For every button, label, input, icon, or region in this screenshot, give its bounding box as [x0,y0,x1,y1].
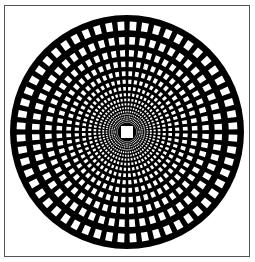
polar-grid-pattern [0,0,255,262]
center-square [121,126,133,138]
